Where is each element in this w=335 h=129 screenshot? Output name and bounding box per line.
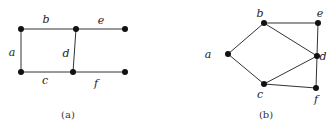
vertex-c <box>261 81 267 87</box>
vertex-v5 <box>70 69 76 75</box>
edge-label-a: a <box>9 46 16 59</box>
vertex-label-e: e <box>317 7 324 20</box>
vertex-v2 <box>73 26 79 32</box>
edge-d-f <box>316 56 317 88</box>
vertex-v4 <box>18 69 24 75</box>
vertex-v1 <box>18 26 24 32</box>
vertex-e <box>315 20 321 26</box>
caption-b: (b) <box>259 109 273 120</box>
edge-label-e: e <box>98 14 105 27</box>
vertex-v3 <box>122 26 128 32</box>
vertex-label-c: c <box>257 88 263 101</box>
edge-label-b: b <box>42 13 49 26</box>
vertex-v6 <box>122 69 128 75</box>
graph-a: beadcf(a) <box>9 13 128 120</box>
vertex-f <box>313 85 319 91</box>
edge-a-c <box>228 54 264 84</box>
edge-a-b <box>228 23 264 54</box>
edge-v2-v5 <box>73 29 76 72</box>
edge-label-d: d <box>62 47 69 60</box>
vertex-a <box>225 51 231 57</box>
vertex-label-d: d <box>319 50 326 63</box>
edge-e-d <box>317 23 318 56</box>
vertex-label-b: b <box>256 7 263 20</box>
vertex-label-f: f <box>313 93 320 106</box>
edge-label-f: f <box>93 77 100 90</box>
edge-c-d <box>264 56 317 84</box>
vertex-b <box>261 20 267 26</box>
edge-c-f <box>264 84 316 88</box>
edge-label-c: c <box>42 74 48 87</box>
edge-b-d <box>264 23 317 56</box>
caption-a: (a) <box>61 109 75 120</box>
vertex-label-a: a <box>205 48 212 61</box>
figure-canvas: beadcf(a) abedcf(b) <box>0 0 335 129</box>
graph-b: abedcf(b) <box>205 7 327 120</box>
